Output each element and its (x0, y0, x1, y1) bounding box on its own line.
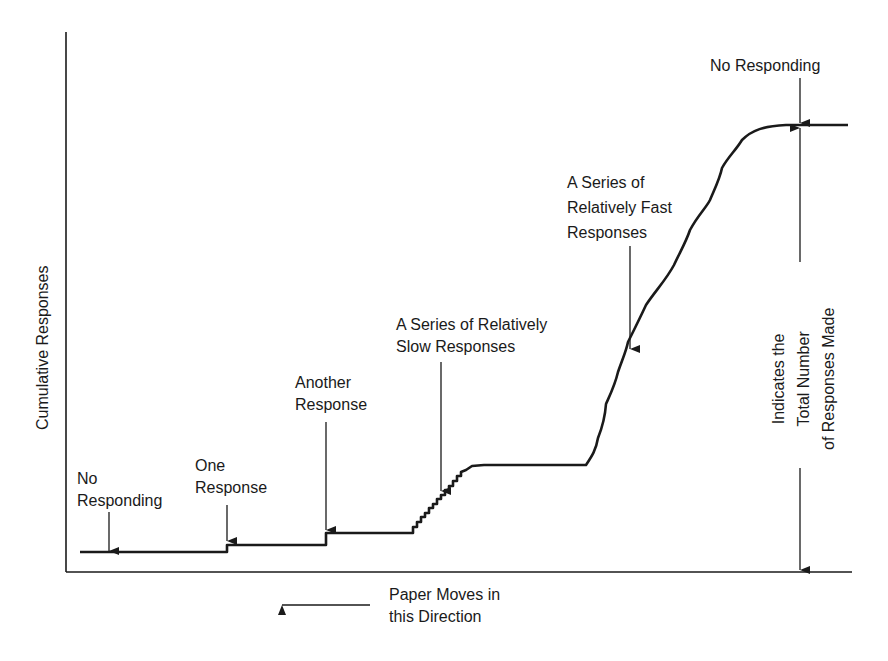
label-line: Responses (567, 220, 672, 245)
label-line: Response (295, 394, 367, 416)
label-line: Slow Responses (396, 336, 547, 358)
label-line: A Series of (567, 170, 672, 195)
label-line: Responding (77, 490, 162, 512)
label-slow-series: A Series of Relatively Slow Responses (396, 314, 547, 358)
label-total-responses: Indicates the Total Number of Responses … (766, 308, 841, 450)
label-fast-series: A Series of Relatively Fast Responses (567, 170, 672, 245)
label-line: Another (295, 372, 367, 394)
label-no-responding-right: No Responding (710, 55, 820, 77)
label-line: of Responses Made (816, 308, 841, 450)
label-line: Paper Moves in (389, 584, 500, 606)
x-axis-label: Paper Moves in this Direction (389, 584, 500, 628)
label-line: Relatively Fast (567, 195, 672, 220)
label-line: A Series of Relatively (396, 314, 547, 336)
label-another-response: Another Response (295, 372, 367, 416)
label-line: Response (195, 477, 267, 499)
label-line: this Direction (389, 606, 500, 628)
label-line: One (195, 455, 267, 477)
label-no-responding-left: No Responding (77, 468, 162, 512)
label-line: Indicates the (766, 308, 791, 450)
label-one-response: One Response (195, 455, 267, 499)
y-axis-label: Cumulative Responses (32, 265, 54, 430)
label-line: No (77, 468, 162, 490)
label-line: No Responding (710, 55, 820, 77)
label-line: Total Number (791, 308, 816, 450)
